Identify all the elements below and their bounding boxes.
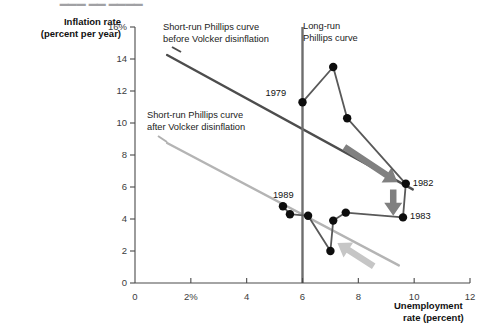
y-tick-label: 4: [87, 213, 127, 224]
data-point-dot[interactable]: [286, 210, 294, 218]
shift-arrow-upper-curve-arrow: [343, 144, 398, 182]
y-tick-label: 6: [87, 181, 127, 192]
annotation-long-run-line1: Long-run: [303, 21, 340, 32]
y-tick-label: 2: [87, 245, 127, 256]
data-point-dot[interactable]: [304, 212, 312, 220]
y-tick-label: 12: [87, 85, 127, 96]
data-point-label-1979: 1979: [266, 88, 287, 99]
annotation-leader-before: [172, 47, 181, 52]
shift-arrow-lower-curve-arrow: [337, 242, 375, 269]
x-tick-label: 12: [455, 291, 485, 302]
data-point-dot[interactable]: [343, 114, 351, 122]
x-tick-label: 6: [288, 291, 318, 302]
y-tick-label: 8: [87, 149, 127, 160]
x-tick-label: 0: [120, 291, 150, 302]
annotation-short-run-after-line1: Short-run Phillips curve: [147, 110, 243, 121]
data-point-dot[interactable]: [402, 180, 410, 188]
y-tick-label: 0: [87, 277, 127, 288]
data-point-dot[interactable]: [298, 98, 306, 106]
y-tick-label: 10: [87, 117, 127, 128]
data-point-label-1989: 1989: [273, 190, 294, 201]
annotation-short-run-after-line2: after Volcker disinflation: [147, 122, 245, 133]
annotation-leader-after: [158, 136, 167, 142]
x-tick-label: 8: [343, 291, 373, 302]
data-point-label-1983: 1983: [410, 211, 431, 222]
phillips-curve-figure: ▁▁▁ ▁▁ ▁▁▁▁ Inflation rate (percent per …: [0, 0, 487, 333]
data-point-label-1982: 1982: [413, 178, 434, 189]
reference-lines-group: [167, 27, 413, 283]
data-point-dot[interactable]: [329, 63, 337, 71]
y-tick-label: 16%: [87, 21, 127, 32]
axes-group: [130, 27, 470, 283]
annotation-short-run-before-line2: before Volcker disinflation: [163, 34, 269, 45]
x-tick-label: 4: [232, 291, 262, 302]
annotation-short-run-before-line1: Short-run Phillips curve: [163, 22, 259, 33]
x-tick-label: 10: [399, 291, 429, 302]
data-point-dot[interactable]: [399, 213, 407, 221]
chart-canvas: [0, 0, 487, 333]
annotation-long-run-line2: Phillips curve: [303, 33, 358, 44]
data-point-dot[interactable]: [329, 216, 337, 224]
data-points-group: [279, 63, 410, 255]
data-point-dot[interactable]: [342, 208, 350, 216]
x-tick-label: 2%: [176, 291, 206, 302]
data-point-dot[interactable]: [279, 202, 287, 210]
y-tick-label: 14: [87, 53, 127, 64]
shift-down-arrow-vertical-arrow: [384, 189, 402, 215]
x-axis-title-line2: rate (percent): [403, 312, 464, 323]
data-point-dot[interactable]: [326, 247, 334, 255]
